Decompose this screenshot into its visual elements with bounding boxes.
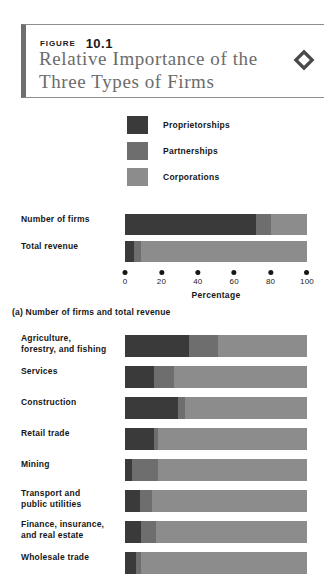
bar-track-industry [125, 366, 307, 388]
tick-label: 80 [266, 277, 275, 286]
bar-row-industry: Services [0, 366, 328, 397]
bar-track-industry [125, 335, 307, 357]
bar-row-number-of-firms: Number of firms [0, 214, 328, 241]
bar-segment-partnerships [154, 366, 174, 388]
bar-segment-partnerships [141, 521, 156, 543]
bar-label-line-1: Agriculture, [21, 333, 126, 344]
bar-label-line-2: and real estate [21, 530, 126, 541]
bar-track-industry [125, 521, 307, 543]
legend-swatch-partnerships [127, 142, 148, 160]
bar-track-total-revenue [125, 241, 307, 262]
bar-segment-corporations [141, 552, 307, 574]
figure-title-line-2: Three Types of Firms [39, 70, 289, 93]
bar-label-line-1: Retail trade [21, 428, 126, 439]
legend-item-corporations: Corporations [127, 166, 230, 187]
bar-segment-proprietorships [125, 241, 134, 262]
tick-dot [195, 270, 200, 275]
bar-segment-proprietorships [125, 521, 141, 543]
tick-dot [268, 270, 273, 275]
x-axis-tick-40: 40 [193, 270, 202, 286]
bar-track-industry [125, 490, 307, 512]
bar-row-industry: Mining [0, 459, 328, 490]
bar-label-industry: Retail trade [21, 428, 126, 439]
bar-track-industry [125, 459, 307, 481]
bar-label-line-1: Mining [21, 459, 126, 470]
legend-item-partnerships: Partnerships [127, 140, 230, 161]
bar-segment-corporations [271, 214, 307, 235]
bar-segment-partnerships [134, 241, 141, 262]
x-axis-tick-0: 0 [123, 270, 128, 286]
bar-label-line-2: public utilities [21, 499, 126, 510]
page-title: Relative Importance of the Three Types o… [39, 47, 289, 93]
legend-label-partnerships: Partnerships [163, 146, 218, 156]
legend-swatch-proprietorships [127, 116, 148, 134]
bar-segment-corporations [158, 459, 307, 481]
bar-segment-partnerships [256, 214, 271, 235]
bar-segment-corporations [218, 335, 307, 357]
figure-header-box: FIGURE10.1 Relative Importance of the Th… [21, 24, 324, 98]
bar-label-line-1: Services [21, 366, 126, 377]
bar-label-line-2: forestry, and fishing [21, 344, 126, 355]
legend-label-corporations: Corporations [163, 172, 219, 182]
bar-segment-proprietorships [125, 552, 136, 574]
panel-b-chart: Agriculture,forestry, and fishingService… [0, 335, 328, 578]
bar-track-number-of-firms [125, 214, 307, 235]
bar-label-industry: Mining [21, 459, 126, 470]
bar-segment-corporations [185, 397, 307, 419]
bar-label-total-revenue: Total revenue [21, 241, 121, 252]
bar-label-line-1: Finance, insurance, [21, 519, 126, 530]
bar-row-total-revenue: Total revenue [0, 241, 328, 268]
figure-title-line-1: Relative Importance of the [39, 47, 289, 70]
tick-label: 0 [123, 277, 128, 286]
bar-row-industry: Finance, insurance,and real estate [0, 521, 328, 552]
legend-swatch-corporations [127, 168, 148, 186]
bar-row-industry: Construction [0, 397, 328, 428]
bar-segment-partnerships [189, 335, 218, 357]
tick-label: 40 [193, 277, 202, 286]
bar-label-line-1: Construction [21, 397, 126, 408]
panel-a-chart: Number of firms Total revenue [0, 214, 328, 268]
diamond-icon [293, 49, 315, 71]
bar-label-industry: Transport andpublic utilities [21, 488, 126, 509]
x-axis-title: Percentage [125, 290, 307, 300]
x-axis-tick-60: 60 [230, 270, 239, 286]
x-axis-tick-100: 100 [300, 270, 314, 286]
bar-label-industry: Services [21, 366, 126, 377]
bar-segment-proprietorships [125, 397, 178, 419]
chart-legend: Proprietorships Partnerships Corporation… [127, 114, 230, 192]
bar-segment-proprietorships [125, 490, 140, 512]
bar-track-industry [125, 428, 307, 450]
bar-label-number-of-firms: Number of firms [21, 214, 121, 225]
bar-row-industry: Transport andpublic utilities [0, 490, 328, 521]
panel-a-caption: (a) Number of firms and total revenue [12, 307, 171, 317]
bar-row-industry: Retail trade [0, 428, 328, 459]
bar-segment-corporations [156, 521, 307, 543]
legend-item-proprietorships: Proprietorships [127, 114, 230, 135]
tick-dot [123, 270, 128, 275]
bar-row-industry: Agriculture,forestry, and fishing [0, 335, 328, 366]
bar-segment-corporations [174, 366, 307, 388]
tick-dot [232, 270, 237, 275]
bar-segment-partnerships [178, 397, 185, 419]
bar-label-line-1: Transport and [21, 488, 126, 499]
tick-dot [159, 270, 164, 275]
bar-segment-proprietorships [125, 214, 256, 235]
bar-row-industry: Wholesale trade [0, 552, 328, 578]
bar-segment-proprietorships [125, 335, 189, 357]
bar-segment-partnerships [140, 490, 153, 512]
bar-label-industry: Wholesale trade [21, 552, 126, 563]
tick-label: 100 [300, 277, 314, 286]
bar-segment-corporations [141, 241, 307, 262]
bar-track-industry [125, 552, 307, 574]
bar-segment-proprietorships [125, 428, 154, 450]
tick-dot [304, 270, 309, 275]
legend-label-proprietorships: Proprietorships [163, 120, 230, 130]
bar-segment-proprietorships [125, 366, 154, 388]
bar-label-industry: Construction [21, 397, 126, 408]
bar-segment-proprietorships [125, 459, 132, 481]
x-axis-tick-20: 20 [157, 270, 166, 286]
bar-segment-corporations [152, 490, 307, 512]
tick-label: 20 [157, 277, 166, 286]
bar-segment-partnerships [132, 459, 157, 481]
tick-label: 60 [230, 277, 239, 286]
